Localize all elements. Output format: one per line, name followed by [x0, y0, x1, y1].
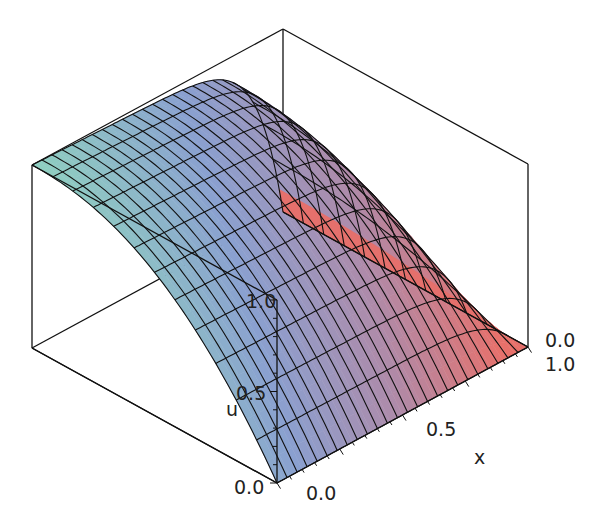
- x-axis-label: x: [474, 448, 485, 467]
- u-tick-1: 1.0: [246, 292, 276, 311]
- x-tick-0: 0.0: [306, 484, 336, 503]
- x-tick-1: 1.0: [545, 355, 575, 374]
- t-tick-0: 0.0: [545, 331, 575, 350]
- u-axis-label: u: [226, 400, 238, 419]
- u-tick-0: 0.0: [234, 478, 264, 497]
- surface-plot: [0, 0, 607, 526]
- x-tick-05: 0.5: [426, 420, 456, 439]
- u-tick-05: 0.5: [236, 384, 266, 403]
